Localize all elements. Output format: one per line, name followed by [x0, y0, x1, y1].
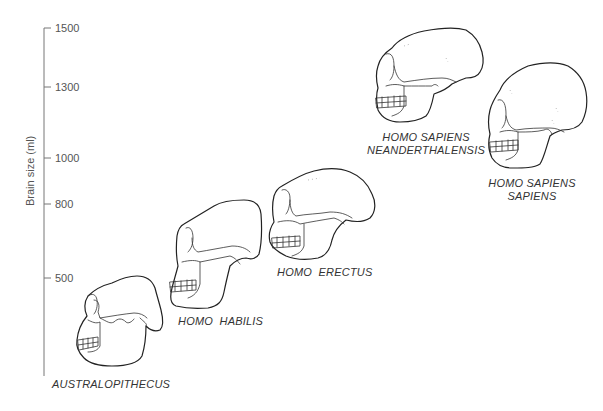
australopithecus-label: AUSTRALOPITHECUS: [52, 378, 170, 391]
homo-habilis-label: HOMO HABILIS: [178, 315, 263, 328]
y-axis-label-text: Brain size (ml): [24, 136, 36, 206]
sapiens-label-line1: HOMO SAPIENS: [486, 177, 578, 190]
homo-habilis-label-line1: HOMO HABILIS: [178, 315, 263, 328]
homo-erectus-label: HOMO ERECTUS: [277, 266, 373, 279]
neanderthalensis-skull-drawing: [376, 28, 483, 122]
neanderthalensis-label-line1: HOMO SAPIENS: [362, 131, 490, 144]
homo-erectus-label-line1: HOMO ERECTUS: [277, 266, 373, 279]
y-tick-label-800: 800: [55, 198, 73, 210]
australopithecus-label-line1: AUSTRALOPITHECUS: [52, 378, 170, 391]
neanderthalensis-label-line2: NEANDERTHALENSIS: [362, 144, 490, 157]
y-tick-label-1300: 1300: [55, 81, 79, 93]
sapiens-label-line2: SAPIENS: [486, 190, 578, 203]
y-tick-label-1000: 1000: [55, 152, 79, 164]
sapiens-skull-drawing: [489, 63, 587, 168]
figure-drawing: [0, 0, 603, 411]
y-tick-label-500: 500: [55, 272, 73, 284]
australopithecus-skull-drawing: [77, 276, 163, 366]
homo-erectus-skull-drawing: [269, 169, 375, 259]
sapiens-label: HOMO SAPIENS SAPIENS: [486, 177, 578, 203]
y-axis-label: Brain size (ml): [24, 170, 44, 190]
y-tick-label-1500: 1500: [55, 22, 79, 34]
homo-habilis-skull-drawing: [170, 200, 262, 308]
brain-size-figure: Brain size (ml) 1500 1300 1000 800 500 A…: [0, 0, 603, 411]
neanderthalensis-label: HOMO SAPIENS NEANDERTHALENSIS: [362, 131, 490, 157]
y-axis: [44, 28, 51, 376]
